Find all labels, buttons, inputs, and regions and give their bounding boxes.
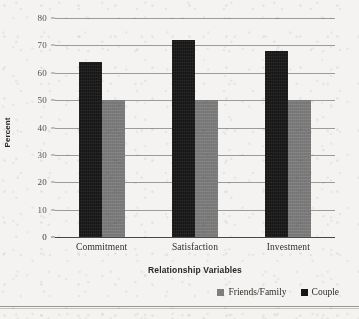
bar-group-investment: Investment — [242, 18, 335, 237]
bar-group-commitment: Commitment — [55, 18, 148, 237]
legend-label: Friends/Family — [228, 288, 286, 298]
legend-item-friends-family[interactable]: Friends/Family — [217, 288, 286, 298]
y-axis-title: Percent — [3, 117, 12, 147]
x-axis-title: Relationship Variables — [55, 265, 335, 275]
legend-swatch-icon — [217, 289, 224, 296]
y-tick-label: 50 — [38, 96, 47, 105]
bar-friends-family[interactable] — [288, 100, 311, 237]
y-tick-label: 40 — [38, 123, 47, 132]
x-tick-label: Commitment — [55, 243, 148, 253]
bar-groups: Commitment Satisfaction Investment — [55, 18, 335, 237]
legend-item-couple[interactable]: Couple — [301, 288, 339, 298]
legend-label: Couple — [312, 288, 339, 298]
y-tick-label: 80 — [38, 14, 47, 23]
bar-couple[interactable] — [79, 62, 102, 237]
bar-chart-figure: Percent 80 70 60 50 40 30 20 — [0, 0, 359, 319]
y-tick-label: 10 — [38, 205, 47, 214]
y-tick-label: 70 — [38, 41, 47, 50]
chart-legend: Friends/Family Couple — [217, 288, 339, 298]
bar-pair — [148, 18, 241, 237]
x-tick-label: Investment — [242, 243, 335, 253]
x-tick-label: Satisfaction — [148, 243, 241, 253]
bar-couple[interactable] — [172, 40, 195, 237]
y-tick-label: 20 — [38, 178, 47, 187]
bar-pair — [55, 18, 148, 237]
y-tick-label: 60 — [38, 68, 47, 77]
legend-swatch-icon — [301, 289, 308, 296]
bar-couple[interactable] — [265, 51, 288, 237]
y-tick-label: 0 — [42, 233, 47, 242]
bar-pair — [242, 18, 335, 237]
plot-area: 80 70 60 50 40 30 20 10 — [55, 18, 335, 237]
y-tick-label: 30 — [38, 150, 47, 159]
bar-group-satisfaction: Satisfaction — [148, 18, 241, 237]
bar-friends-family[interactable] — [102, 100, 125, 237]
bar-friends-family[interactable] — [195, 100, 218, 237]
page-separator-rule-shadow — [0, 308, 359, 309]
page-separator-rule — [0, 306, 359, 307]
axis-baseline: 0 — [55, 237, 335, 238]
